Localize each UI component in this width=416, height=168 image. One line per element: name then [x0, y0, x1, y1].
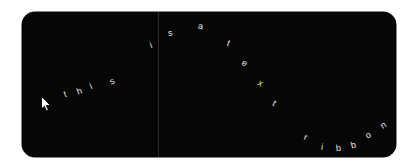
ribbon-letter: i — [320, 143, 323, 152]
vertical-divider — [158, 12, 159, 157]
ribbon-letter: b — [336, 144, 342, 153]
ribbon-letter: i — [149, 41, 154, 50]
ribbon-letter: e — [240, 58, 249, 68]
ribbon-letter: x — [256, 78, 265, 88]
screenshot-canvas: thisisatextribbon — [0, 0, 416, 168]
ribbon-letter: s — [167, 29, 173, 39]
ribbon-letter: t — [271, 99, 278, 108]
ribbon-letter: t — [225, 39, 231, 48]
ribbon-letter: s — [108, 76, 116, 86]
ribbon-letter: n — [379, 120, 388, 130]
ribbon-letter: b — [350, 140, 357, 150]
ribbon-letter: r — [302, 133, 308, 142]
ribbon-letter: a — [198, 22, 204, 31]
ribbon-letter: i — [88, 82, 93, 91]
ribbon-letter: o — [364, 130, 372, 140]
text-ribbon-panel[interactable]: thisisatextribbon — [22, 12, 396, 157]
ribbon-letter: h — [76, 86, 84, 96]
ribbon-letter: t — [63, 90, 68, 99]
